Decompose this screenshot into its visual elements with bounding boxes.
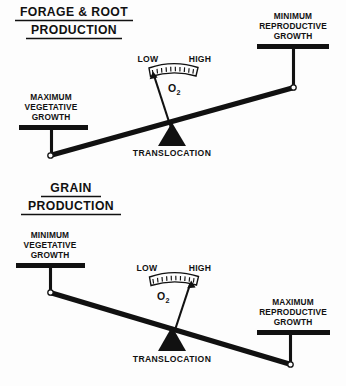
gauge-o2-label: O2 — [168, 82, 181, 97]
left-platform-label-line-2: VEGETATIVE — [25, 102, 78, 112]
panel-forage-root-title: FORAGE & ROOT PRODUCTION — [15, 5, 133, 39]
left-platform-label-line-1: MAXIMUM — [30, 92, 72, 102]
right-platform-label-line-3: GROWTH — [274, 31, 313, 41]
panel-grain-right-platform: MAXIMUM REPRODUCTIVE GROWTH — [257, 297, 330, 364]
gauge-low-label: LOW — [138, 54, 160, 64]
panel-grain-fulcrum-label: TRANSLOCATION — [133, 354, 211, 364]
grain-left-platform-label-line-3: GROWTH — [31, 250, 70, 260]
grain-right-beam-joint — [288, 362, 293, 367]
grain-gauge-o2-label: O2 — [157, 290, 170, 305]
grain-right-platform-label-line-3: GROWTH — [274, 317, 313, 327]
left-platform-label-line-3: GROWTH — [32, 112, 71, 122]
right-platform-label-line-1: MINIMUM — [274, 11, 312, 21]
panel-forage-root-fulcrum-label: TRANSLOCATION — [133, 148, 211, 158]
grain-gauge-high-label: HIGH — [189, 263, 212, 273]
grain-left-platform-label-line-2: VEGETATIVE — [24, 240, 77, 250]
grain-left-platform-label-line-1: MINIMUM — [31, 230, 69, 240]
right-platform-label-line-2: REPRODUCTIVE — [259, 21, 327, 31]
panel-forage-root-title-line-1: FORAGE & ROOT — [20, 5, 128, 19]
left-beam-joint — [48, 153, 53, 158]
balance-diagram-canvas: FORAGE & ROOT PRODUCTION MINIMUM REPRODU… — [0, 0, 346, 386]
gauge-band — [149, 64, 198, 77]
gauge-high-label: HIGH — [189, 54, 212, 64]
panel-forage-root-right-platform: MINIMUM REPRODUCTIVE GROWTH — [257, 11, 329, 87]
panel-forage-root: FORAGE & ROOT PRODUCTION MINIMUM REPRODU… — [15, 5, 329, 158]
grain-gauge-low-label: LOW — [137, 263, 159, 273]
panel-grain-title: GRAIN PRODUCTION — [21, 181, 121, 215]
panel-forage-root-title-line-2: PRODUCTION — [31, 23, 117, 37]
panel-grain-title-line-1: GRAIN — [50, 181, 91, 195]
panel-grain: GRAIN PRODUCTION MINIMUM VEGETATIVE GROW… — [16, 181, 330, 367]
right-beam-joint — [291, 85, 296, 90]
grain-right-platform-label-line-2: REPRODUCTIVE — [259, 307, 327, 317]
panel-grain-title-line-2: PRODUCTION — [28, 199, 114, 213]
grain-right-platform-label-line-1: MAXIMUM — [272, 297, 314, 307]
diagram-root: FORAGE & ROOT PRODUCTION MINIMUM REPRODU… — [0, 0, 346, 386]
grain-left-beam-joint — [48, 290, 53, 295]
panel-grain-left-platform: MINIMUM VEGETATIVE GROWTH — [16, 230, 85, 292]
